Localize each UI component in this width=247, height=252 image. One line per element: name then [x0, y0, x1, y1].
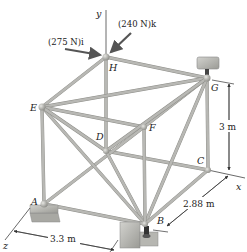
joint-b	[142, 221, 148, 227]
z-axis-label: z	[2, 240, 9, 251]
joint-e	[39, 104, 46, 111]
label-f: F	[148, 122, 156, 133]
dimension-height: 3 m	[212, 80, 245, 170]
dimension-width: 3.3 m	[14, 231, 118, 252]
label-c: C	[197, 155, 205, 166]
joint-c	[205, 167, 211, 173]
dimension-depth-label: 2.88 m	[183, 199, 215, 209]
label-a: A	[30, 196, 38, 207]
support-g	[197, 57, 219, 77]
y-axis: y	[95, 8, 106, 57]
label-h: H	[108, 62, 118, 73]
label-b: B	[156, 215, 164, 226]
dimension-height-label: 3 m	[219, 122, 237, 132]
z-axis: z	[2, 208, 30, 251]
truss-diagram: y x	[0, 0, 247, 252]
force-k: (240 N)k	[111, 19, 157, 52]
joint-f	[141, 124, 147, 130]
joint-a	[41, 201, 48, 208]
label-d: D	[95, 131, 104, 142]
label-g: G	[211, 82, 219, 93]
joint-h	[103, 54, 110, 61]
force-i: (275 N)i	[48, 37, 100, 55]
y-axis-label: y	[95, 8, 102, 19]
support-b	[120, 222, 158, 248]
joint-g	[204, 75, 211, 82]
force-k-label: (240 N)k	[118, 19, 157, 29]
label-e: E	[29, 102, 37, 113]
x-axis-label: x	[236, 181, 242, 192]
dimension-width-label: 3.3 m	[50, 234, 76, 244]
force-i-label: (275 N)i	[48, 37, 84, 47]
joint-d	[103, 148, 109, 154]
x-axis: x	[208, 170, 245, 192]
